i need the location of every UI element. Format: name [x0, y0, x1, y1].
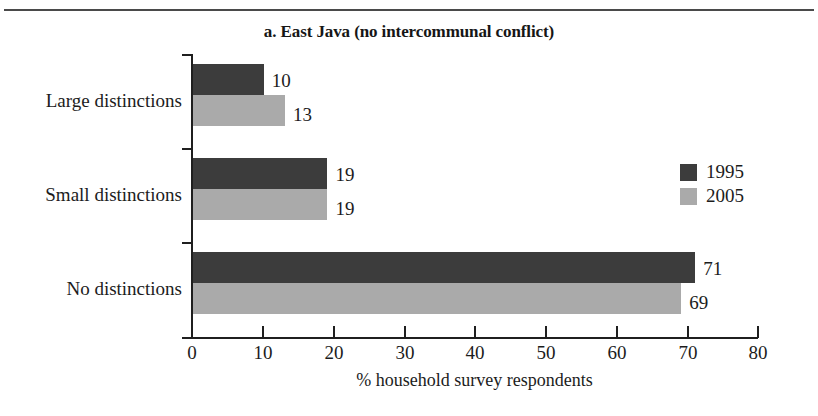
bar-value-small-distinctions-1995: 19 [335, 164, 354, 186]
bar-no-distinctions-2005 [193, 283, 681, 314]
value-axis-tick-label: 80 [738, 342, 778, 364]
legend-entry-1995: 1995 [680, 160, 744, 184]
value-axis-tick [191, 326, 193, 338]
bar-large-distinctions-2005 [193, 95, 285, 126]
category-axis-tick [182, 242, 191, 244]
value-axis-tick-label: 40 [455, 342, 495, 364]
bar-value-large-distinctions-2005: 13 [293, 104, 312, 126]
value-axis-tick [687, 326, 689, 338]
value-axis-tick-label: 50 [526, 342, 566, 364]
value-axis-tick [616, 326, 618, 338]
value-axis-tick [757, 326, 759, 338]
bar-value-no-distinctions-2005: 69 [689, 292, 708, 314]
legend-label-2005: 2005 [706, 185, 744, 207]
value-axis-tick [333, 326, 335, 338]
value-axis-title: % household survey respondents [191, 370, 758, 391]
value-axis-tick [404, 326, 406, 338]
value-axis-tick-label: 30 [385, 342, 425, 364]
legend-entry-2005: 2005 [680, 184, 744, 208]
bar-large-distinctions-1995 [193, 64, 264, 95]
legend-swatch-icon-1995 [680, 164, 697, 181]
value-axis-tick [474, 326, 476, 338]
category-axis-tick [182, 148, 191, 150]
category-label-no-distinctions: No distinctions [0, 278, 182, 300]
bar-value-no-distinctions-1995: 71 [703, 258, 722, 280]
value-axis-tick [545, 326, 547, 338]
value-axis-tick-label: 20 [314, 342, 354, 364]
bar-chart-plot-area: 0 10 20 30 40 50 60 70 80 % household su… [0, 0, 818, 416]
bar-small-distinctions-1995 [193, 158, 327, 189]
value-axis-tick-label: 0 [172, 342, 212, 364]
category-label-large-distinctions: Large distinctions [0, 90, 182, 112]
bar-value-large-distinctions-1995: 10 [272, 70, 291, 92]
category-axis-tick [182, 337, 191, 339]
value-axis-tick [262, 326, 264, 338]
value-axis-tick-label: 10 [243, 342, 283, 364]
value-axis-tick-label: 60 [597, 342, 637, 364]
bar-small-distinctions-2005 [193, 189, 327, 220]
category-axis-tick [182, 54, 191, 56]
value-axis-tick-label: 70 [668, 342, 708, 364]
legend-label-1995: 1995 [706, 161, 744, 183]
chart-legend: 1995 2005 [680, 160, 744, 208]
category-label-small-distinctions: Small distinctions [0, 184, 182, 206]
bar-no-distinctions-1995 [193, 252, 695, 283]
bar-value-small-distinctions-2005: 19 [335, 198, 354, 220]
legend-swatch-icon-2005 [680, 188, 697, 205]
